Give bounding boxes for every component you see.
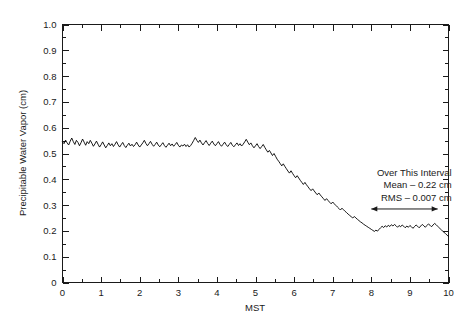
y-tick-label-0.4: 0.4 [43,174,56,185]
annotation-line-0: Over This Interval [377,167,452,178]
x-tick-label-3: 3 [176,287,181,298]
x-tick-label-4: 4 [214,287,219,298]
y-tick-label-0.3: 0.3 [43,200,56,211]
y-tick-label-0.5: 0.5 [43,148,56,159]
x-tick-label-2: 2 [137,287,142,298]
x-tick-label-10: 10 [443,287,454,298]
y-axis-title: Precipitable Water Vapor (cm) [17,90,28,216]
annotation-line-2: RMS – 0.007 cm [381,192,452,203]
x-tick-label-7: 7 [330,287,335,298]
x-axis-title: MST [245,302,265,313]
x-tick-label-5: 5 [253,287,258,298]
y-tick-label-0.2: 0.2 [43,225,56,236]
x-tick-label-9: 9 [407,287,412,298]
annotation-line-1: Mean – 0.22 cm [384,179,452,190]
y-tick-label-0.7: 0.7 [43,96,56,107]
x-tick-label-8: 8 [369,287,374,298]
y-tick-label-1.0: 1.0 [43,19,56,30]
chart-background [0,0,472,321]
x-tick-label-0: 0 [60,287,65,298]
y-tick-label-0.1: 0.1 [43,251,56,262]
y-tick-label-0.6: 0.6 [43,122,56,133]
y-tick-label-0.8: 0.8 [43,71,56,82]
x-tick-label-1: 1 [98,287,103,298]
y-tick-label-0: 0 [51,277,56,288]
precipitable-water-vapor-chart: 012345678910 00.10.20.30.40.50.60.70.80.… [0,0,472,321]
x-tick-label-6: 6 [291,287,296,298]
chart-figure: 012345678910 00.10.20.30.40.50.60.70.80.… [0,0,472,321]
y-tick-label-0.9: 0.9 [43,45,56,56]
